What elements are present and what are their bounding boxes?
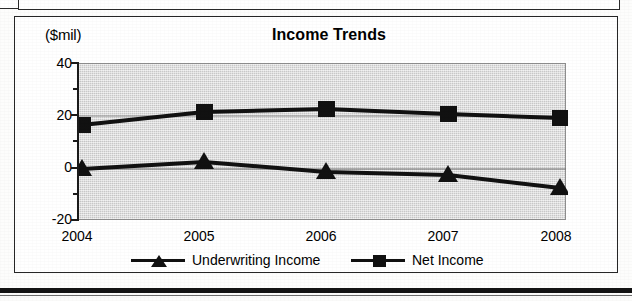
series-underwriting-income-markers: [79, 152, 568, 195]
y-axis-tick-marks: [68, 60, 80, 225]
y-tick-label-0: 0: [34, 160, 72, 174]
x-axis-tick-labels: 2004 2005 2006 2007 2008: [0, 228, 632, 248]
triangle-marker-icon: [150, 254, 168, 268]
income-trends-chart: ($mil) Income Trends 40 20 0 -20: [0, 0, 632, 301]
legend-item-net-income: Net Income: [351, 252, 484, 268]
chart-title: Income Trends: [0, 26, 632, 44]
marker-net-2004: [79, 117, 91, 133]
chart-legend: Underwriting Income Net Income: [0, 252, 632, 276]
page-footer-rule: [0, 288, 632, 293]
x-tick-label-2008: 2008: [526, 228, 586, 244]
legend-label-underwriting-income: Underwriting Income: [192, 252, 320, 268]
marker-net-2005: [196, 104, 213, 120]
marker-net-2006: [318, 101, 335, 117]
marker-net-2007: [440, 106, 457, 122]
x-tick-label-2006: 2006: [291, 228, 351, 244]
x-tick-label-2005: 2005: [169, 228, 229, 244]
legend-key-triangle: [131, 252, 185, 268]
legend-item-underwriting-income: Underwriting Income: [131, 252, 320, 268]
page-footer-rule-secondary: [0, 295, 632, 296]
x-tick-label-2007: 2007: [413, 228, 473, 244]
y-tick-label-minus-20: -20: [34, 212, 72, 226]
plot-graphics: [79, 64, 568, 221]
y-tick-label-40: 40: [34, 56, 72, 70]
square-marker-icon: [370, 254, 388, 268]
legend-key-square: [351, 252, 405, 268]
x-tick-label-2004: 2004: [47, 228, 107, 244]
chart-title-text: Income Trends: [246, 26, 386, 43]
marker-net-2008: [552, 110, 568, 126]
scanned-page: ($mil) Income Trends 40 20 0 -20: [0, 0, 632, 301]
plot-area: [77, 63, 566, 220]
legend-label-net-income: Net Income: [412, 252, 484, 268]
y-tick-label-20: 20: [34, 108, 72, 122]
